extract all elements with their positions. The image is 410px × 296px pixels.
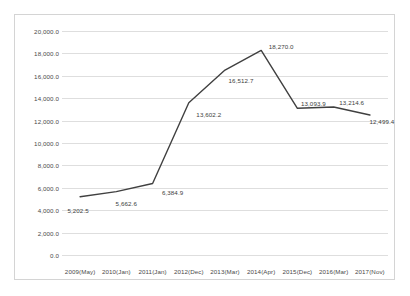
- x-axis-tick-label: 2016(Mar): [319, 268, 348, 275]
- x-axis-tick-label: 2017(Nov): [355, 268, 385, 275]
- plot-area: 0.02,000.04,000.06,000.08,000.010,000.01…: [15, 15, 396, 281]
- x-axis-tick-label: 2014(Apr): [247, 268, 275, 275]
- x-axis-tick-label: 2009(May): [65, 268, 95, 275]
- x-axis-tick-label: 2010(Jan): [102, 268, 131, 275]
- x-axis-tick-label: 2015(Dec): [282, 268, 312, 275]
- x-axis-tick-label: 2012(Dec): [174, 268, 204, 275]
- x-axis-tick-label: 2011(Jan): [138, 268, 166, 275]
- x-axis-tick-label: 2013(Mar): [210, 268, 239, 275]
- chart-frame: 0.02,000.04,000.06,000.08,000.010,000.01…: [14, 14, 395, 280]
- x-axis: 2009(May)2010(Jan)2011(Jan)2012(Dec)2013…: [15, 15, 396, 281]
